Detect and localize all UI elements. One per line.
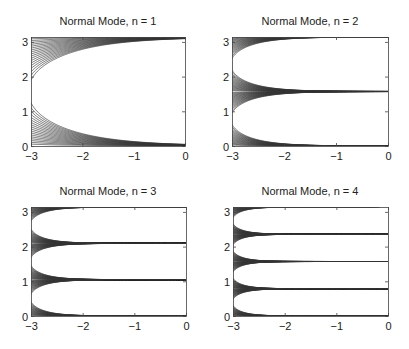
subplot-n3: Normal Mode, n = 3 −3−2−100123 (22, 185, 190, 332)
x-tick-label: −1 (128, 150, 141, 162)
x-tick-label: −2 (77, 150, 90, 162)
x-tick-label: −1 (330, 150, 343, 162)
x-tick-label: −1 (129, 320, 142, 332)
y-tick-label: 0 (22, 141, 28, 153)
contour-lines (233, 207, 388, 316)
subplot-title: Normal Mode, n = 1 (60, 15, 157, 27)
y-tick-label: 0 (224, 311, 230, 323)
x-tick-label: −2 (278, 150, 291, 162)
y-tick-label: 2 (22, 241, 28, 253)
axes-box (32, 208, 187, 317)
y-tick-label: 1 (223, 106, 229, 118)
x-tick-label: 0 (385, 320, 391, 332)
subplot-n2: Normal Mode, n = 2 −3−2−100123 (223, 15, 392, 162)
subplot-title: Normal Mode, n = 2 (262, 15, 359, 27)
y-tick-label: 0 (22, 311, 28, 323)
y-tick-label: 2 (224, 241, 230, 253)
contour-lines (31, 207, 186, 316)
contour-lines (31, 37, 185, 146)
figure: Normal Mode, n = 1 −3−2−100123 Normal Mo… (0, 0, 409, 349)
x-tick-label: −2 (77, 320, 90, 332)
y-tick-label: 3 (223, 36, 229, 48)
subplot-n1: Normal Mode, n = 1 −3−2−100123 (22, 15, 189, 162)
y-tick-label: 3 (22, 206, 28, 218)
x-tick-label: −2 (279, 320, 292, 332)
y-tick-label: 0 (223, 141, 229, 153)
contour-lines (232, 37, 388, 146)
subplot-title: Normal Mode, n = 4 (262, 185, 359, 197)
y-tick-label: 1 (22, 276, 28, 288)
y-tick-label: 1 (22, 106, 28, 118)
x-tick-label: 0 (385, 150, 391, 162)
x-tick-label: −1 (331, 320, 344, 332)
x-tick-label: 0 (182, 150, 188, 162)
subplot-n4: Normal Mode, n = 4 −3−2−100123 (224, 185, 392, 332)
y-tick-label: 2 (223, 71, 229, 83)
y-tick-label: 2 (22, 71, 28, 83)
x-tick-label: 0 (183, 320, 189, 332)
y-tick-label: 1 (224, 276, 230, 288)
y-tick-label: 3 (22, 36, 28, 48)
subplot-title: Normal Mode, n = 3 (60, 185, 157, 197)
y-tick-label: 3 (224, 206, 230, 218)
